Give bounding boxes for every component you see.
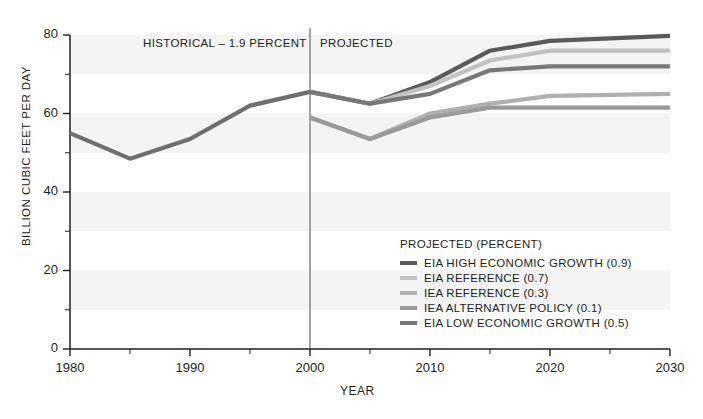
y-axis-title: BILLION CUBIC FEET PER DAY (20, 46, 32, 266)
legend-item-label: EIA HIGH ECONOMIC GROWTH (0.9) (424, 257, 632, 269)
x-tick-label: 2000 (280, 360, 340, 375)
x-tick-label: 1990 (160, 360, 220, 375)
y-tick-label: 20 (18, 262, 58, 277)
x-tick-label: 2030 (640, 360, 700, 375)
x-tick-label: 1980 (40, 360, 100, 375)
x-axis-title: YEAR (340, 384, 375, 398)
legend-item[interactable]: EIA HIGH ECONOMIC GROWTH (0.9) (400, 255, 632, 270)
legend-items: EIA HIGH ECONOMIC GROWTH (0.9)EIA REFERE… (400, 255, 632, 330)
legend-swatch-icon (400, 261, 417, 265)
annotation-projected: PROJECTED (320, 37, 393, 49)
legend-swatch-icon (400, 291, 417, 295)
legend-item[interactable]: EIA REFERENCE (0.7) (400, 270, 632, 285)
legend-item-label: EIA REFERENCE (0.7) (424, 272, 549, 284)
legend-swatch-icon (400, 321, 417, 325)
x-tick-label: 2010 (400, 360, 460, 375)
plot-band (70, 192, 670, 231)
legend-item[interactable]: EIA LOW ECONOMIC GROWTH (0.5) (400, 315, 632, 330)
legend-item[interactable]: IEA ALTERNATIVE POLICY (0.1) (400, 300, 632, 315)
legend-item-label: IEA REFERENCE (0.3) (424, 287, 549, 299)
chart-container: BILLION CUBIC FEET PER DAY 020406080 198… (0, 0, 703, 419)
annotation-historical: HISTORICAL – 1.9 PERCENT (143, 37, 307, 49)
x-tick-label: 2020 (520, 360, 580, 375)
y-tick-label: 40 (18, 183, 58, 198)
legend-item-label: EIA LOW ECONOMIC GROWTH (0.5) (424, 317, 629, 329)
y-tick-label: 80 (18, 26, 58, 41)
line-chart-canvas (0, 0, 703, 419)
legend-swatch-icon (400, 306, 417, 310)
legend-swatch-icon (400, 276, 417, 280)
legend-item[interactable]: IEA REFERENCE (0.3) (400, 285, 632, 300)
y-tick-label: 0 (18, 340, 58, 355)
legend-item-label: IEA ALTERNATIVE POLICY (0.1) (424, 302, 602, 314)
y-tick-label: 60 (18, 105, 58, 120)
legend-title: PROJECTED (PERCENT) (400, 238, 632, 250)
chart-legend: PROJECTED (PERCENT) EIA HIGH ECONOMIC GR… (400, 238, 632, 330)
